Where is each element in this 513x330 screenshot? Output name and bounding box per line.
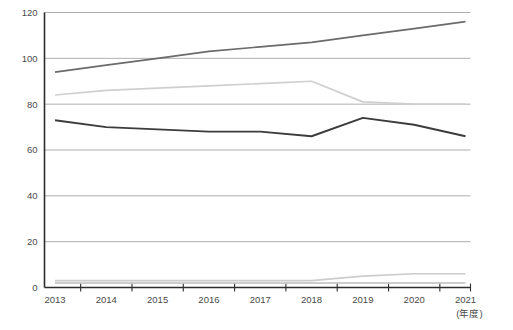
y-tick-label-120: 120 <box>22 7 38 18</box>
y-axis-tick-labels: 020406080100120 <box>22 7 38 293</box>
x-tick-label-2021: 2021 <box>455 294 476 305</box>
y-tick-label-20: 20 <box>27 236 38 247</box>
line-chart: 020406080100120 201320142015201620172018… <box>0 0 513 330</box>
x-tick-label-2019: 2019 <box>352 294 373 305</box>
y-tick-label-80: 80 <box>27 99 38 110</box>
series-line-series-3 <box>55 118 466 136</box>
x-tick-label-2017: 2017 <box>250 294 271 305</box>
x-axis-unit-label: (年度) <box>456 308 482 319</box>
x-tick-label-2018: 2018 <box>301 294 322 305</box>
y-tick-label-60: 60 <box>27 144 38 155</box>
x-tick-label-2016: 2016 <box>198 294 219 305</box>
x-tick-label-2013: 2013 <box>44 294 65 305</box>
y-tick-label-0: 0 <box>32 282 37 293</box>
x-axis-tick-labels: 201320142015201620172018201920202021 <box>44 294 476 305</box>
series-line-series-1 <box>55 22 466 72</box>
x-tick-label-2020: 2020 <box>404 294 425 305</box>
data-series <box>55 22 466 283</box>
series-line-series-2 <box>55 81 466 104</box>
y-tick-label-40: 40 <box>27 190 38 201</box>
y-tick-label-100: 100 <box>22 53 38 64</box>
chart-canvas: 020406080100120 201320142015201620172018… <box>0 0 513 330</box>
series-line-series-5 <box>55 274 466 281</box>
x-tick-label-2015: 2015 <box>147 294 168 305</box>
x-tick-label-2014: 2014 <box>96 294 117 305</box>
